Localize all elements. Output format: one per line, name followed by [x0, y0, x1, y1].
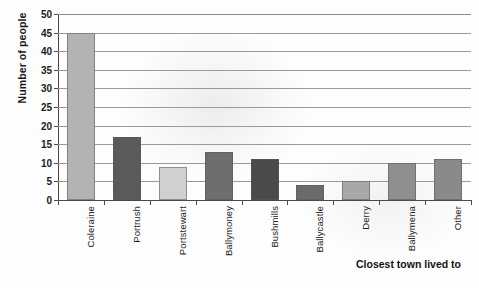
x-axis-label: Other — [452, 206, 463, 230]
x-axis-label: Ballymoney — [223, 206, 234, 256]
x-axis-label: Coleraine — [85, 206, 96, 248]
x-tick-mark — [471, 200, 472, 205]
y-tick-mark — [54, 70, 58, 71]
x-tick-mark — [287, 200, 288, 205]
bar — [113, 137, 141, 200]
x-tick-mark — [150, 200, 151, 205]
gridline — [58, 70, 471, 71]
x-axis-label: Ballymena — [406, 206, 417, 251]
gridline — [58, 33, 471, 34]
y-tick-label: 20 — [41, 120, 52, 131]
bar — [205, 152, 233, 200]
y-tick-mark — [54, 14, 58, 15]
y-tick-label: 25 — [41, 102, 52, 113]
plot-area: 05101520253035404550 — [58, 14, 471, 200]
bar-chart: Number of people 05101520253035404550 Co… — [0, 0, 479, 288]
x-axis-label: Portstewart — [177, 206, 188, 255]
y-tick-label: 45 — [41, 27, 52, 38]
y-axis-title: Number of people — [16, 0, 28, 118]
x-tick-mark — [196, 200, 197, 205]
y-tick-mark — [54, 51, 58, 52]
bar — [251, 159, 279, 200]
y-tick-mark — [54, 33, 58, 34]
x-axis-title: Closest town lived to — [356, 258, 461, 270]
y-tick-mark — [54, 126, 58, 127]
bar — [159, 167, 187, 200]
y-tick-label: 30 — [41, 83, 52, 94]
y-tick-label: 40 — [41, 46, 52, 57]
x-tick-mark — [58, 200, 59, 205]
x-axis-label: Portrush — [131, 206, 142, 243]
x-axis-label: Bushmills — [269, 206, 280, 248]
x-tick-mark — [242, 200, 243, 205]
y-tick-mark — [54, 107, 58, 108]
gridline — [58, 88, 471, 89]
bar — [388, 163, 416, 200]
x-tick-mark — [379, 200, 380, 205]
gridline — [58, 126, 471, 127]
gridline — [58, 51, 471, 52]
y-tick-label: 50 — [41, 9, 52, 20]
x-axis-label: Ballycastle — [314, 206, 325, 253]
x-tick-mark — [333, 200, 334, 205]
x-tick-mark — [104, 200, 105, 205]
gridline — [58, 107, 471, 108]
bar — [434, 159, 462, 200]
bar — [342, 181, 370, 200]
bar — [67, 33, 95, 200]
x-axis-label: Derry — [360, 206, 371, 230]
bar — [296, 185, 324, 200]
y-tick-mark — [54, 181, 58, 182]
y-tick-mark — [54, 144, 58, 145]
x-tick-mark — [425, 200, 426, 205]
y-tick-mark — [54, 88, 58, 89]
y-tick-label: 0 — [46, 195, 52, 206]
y-tick-label: 15 — [41, 139, 52, 150]
y-tick-label: 5 — [46, 176, 52, 187]
y-tick-label: 35 — [41, 64, 52, 75]
y-tick-mark — [54, 163, 58, 164]
y-tick-label: 10 — [41, 157, 52, 168]
gridline — [58, 14, 471, 15]
